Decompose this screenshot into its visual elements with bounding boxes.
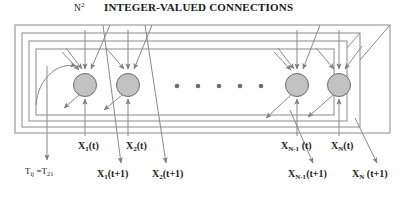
weight-label-equals: =T	[34, 166, 47, 176]
label-x2-t1-sub: 2	[159, 173, 163, 181]
label-x1-t1-sub: 1	[104, 173, 108, 181]
arrow-in-nN-c	[345, 46, 362, 69]
arrow-down-n2	[145, 25, 166, 163]
weight-label-ij: ij	[31, 170, 35, 177]
label-xN-1-t1-sub: N-1	[295, 173, 306, 181]
label-xN-t: XN(t)	[331, 140, 353, 151]
label-xN-t1-suffix: (t+1)	[364, 168, 387, 179]
label-x2-t-sub: 2	[133, 145, 137, 153]
figure-root: N2 INTEGER-VALUED CONNECTIONS	[0, 0, 413, 201]
neuron-nodes	[74, 74, 351, 97]
label-x1-t: X1(t)	[78, 140, 99, 151]
weight-label-t: T	[25, 166, 31, 176]
label-xN-t1-sub: N	[359, 173, 364, 181]
label-xN-1-t: XN-1 (t)	[281, 140, 312, 151]
label-xN-1-t-sub: N-1	[288, 145, 299, 153]
curve-into-n1	[36, 65, 76, 105]
label-x1-t1: X1(t+1)	[97, 168, 128, 179]
label-x2-t1-suffix: (t+1)	[163, 168, 184, 179]
node-x1[interactable]	[74, 74, 97, 97]
weight-label-21: 21	[47, 170, 54, 177]
label-xN-1-t-suffix: (t)	[299, 140, 312, 151]
state-input-arrows	[85, 99, 339, 136]
arrow-in-n2-c	[134, 25, 152, 69]
label-x1-t1-suffix: (t+1)	[108, 168, 129, 179]
feedback-box-2	[22, 33, 360, 127]
node-x2[interactable]	[117, 74, 140, 97]
box-diagonal-connectors	[347, 25, 390, 60]
ellipsis-dot	[196, 84, 201, 89]
label-xN-t-suffix: (t)	[343, 140, 353, 151]
label-xN-1-t1: XN-1(t+1)	[288, 168, 327, 179]
arrow-down-nN1	[290, 110, 313, 163]
arrow-in-nN1-d	[303, 25, 320, 69]
ellipsis-dot	[217, 84, 222, 89]
label-x2-t1: X2(t+1)	[152, 168, 183, 179]
curved-feedback-path	[36, 65, 76, 105]
ellipsis-dots	[175, 84, 264, 89]
label-xN-t1: XN (t+1)	[352, 168, 388, 179]
arrow-in-nN-a	[316, 48, 334, 69]
arrow-in-n1-d	[91, 25, 110, 69]
label-x1-t-sub: 1	[85, 145, 89, 153]
label-x2-t-suffix: (t)	[137, 140, 147, 151]
label-xN-1-t1-suffix: (t+1)	[306, 168, 327, 179]
arrow-out-nN-left	[308, 95, 333, 117]
weight-label-tij: Tij =T21	[25, 166, 53, 176]
arrow-out-n1-left	[64, 95, 79, 108]
diagonal-mid	[347, 33, 360, 48]
node-xN[interactable]	[328, 74, 351, 97]
label-x2-t: X2(t)	[126, 140, 147, 151]
ellipsis-dot	[175, 84, 180, 89]
incoming-connection-arrows	[62, 25, 362, 70]
label-x1-t-suffix: (t)	[89, 140, 99, 151]
arrow-down-n1	[103, 25, 121, 163]
ellipsis-dot	[259, 84, 264, 89]
arrow-down-nN	[355, 118, 377, 163]
label-xN-t-sub: N	[338, 145, 343, 153]
diagonal-outer	[360, 25, 390, 60]
node-xN-1[interactable]	[286, 74, 309, 97]
ellipsis-dot	[238, 84, 243, 89]
